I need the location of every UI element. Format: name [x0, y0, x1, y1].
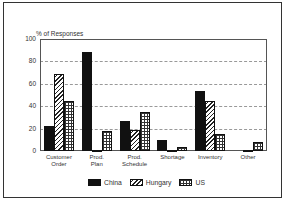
- legend-label: China: [104, 179, 122, 186]
- bar-hungary-2: [130, 130, 140, 151]
- legend-item-china: China: [88, 179, 122, 186]
- bar-us-0: [64, 101, 74, 151]
- bar-china-2: [120, 121, 130, 151]
- bar-china-3: [157, 140, 167, 151]
- y-tick-label: 80: [16, 57, 36, 64]
- x-category-label: Inventory: [190, 154, 230, 161]
- legend-label: Hungary: [146, 179, 172, 186]
- plot-area: [40, 39, 267, 151]
- x-category-label: Other: [228, 154, 268, 161]
- bar-us-1: [102, 131, 112, 151]
- china-swatch-icon: [88, 179, 101, 186]
- y-tick-label: 60: [16, 80, 36, 87]
- x-category-label: Shortage: [152, 154, 192, 161]
- bar-us-2: [140, 112, 150, 151]
- y-tick-label: 20: [16, 125, 36, 132]
- us-swatch-icon: [179, 179, 192, 186]
- bar-hungary-4: [205, 101, 215, 151]
- bar-china-1: [82, 52, 92, 151]
- x-category-label: Prod.Schedule: [115, 154, 155, 168]
- y-tick-label: 0: [16, 147, 36, 154]
- bar-hungary-5: [243, 150, 253, 152]
- bar-hungary-0: [54, 74, 64, 151]
- bar-us-5: [253, 142, 263, 151]
- y-axis-label: % of Responses: [36, 30, 83, 37]
- legend: China Hungary US: [88, 179, 205, 186]
- bar-hungary-3: [167, 150, 177, 152]
- bar-us-3: [177, 147, 187, 151]
- legend-item-hungary: Hungary: [130, 179, 172, 186]
- y-tick-label: 100: [16, 35, 36, 42]
- bar-us-4: [215, 134, 225, 151]
- x-category-label: CustomerOrder: [39, 154, 79, 168]
- x-category-label: Prod.Plan: [77, 154, 117, 168]
- legend-item-us: US: [179, 179, 204, 186]
- legend-label: US: [195, 179, 204, 186]
- hungary-swatch-icon: [130, 179, 143, 186]
- y-tick-label: 40: [16, 102, 36, 109]
- bar-hungary-1: [92, 150, 102, 152]
- bar-china-0: [44, 126, 54, 151]
- bar-china-4: [195, 91, 205, 151]
